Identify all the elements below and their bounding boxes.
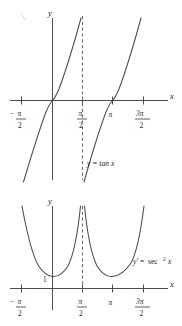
numerator: π <box>109 298 113 307</box>
equation-lhs: y′ <box>132 257 138 266</box>
y-value-label-one: 1 <box>43 276 47 284</box>
numerator: 3π <box>135 109 144 118</box>
denominator: 2 <box>140 309 144 318</box>
equation-base: sec <box>148 257 158 266</box>
neg-sign: − <box>10 109 14 118</box>
x-axis-label: x <box>169 91 174 101</box>
numerator: 3π <box>135 297 144 306</box>
ticklabel-neg-half-pi: − π 2 <box>10 109 26 130</box>
denominator: 2 <box>18 121 22 130</box>
sec-squared-graph: x y 1 y′ = sec 2 x <box>10 196 174 318</box>
denominator: 2 <box>79 121 83 130</box>
numerator: π <box>18 297 22 306</box>
ticklabel-three-half-pi: 3π 2 <box>135 109 150 130</box>
numerator: π <box>109 110 113 119</box>
y-axis-label: y <box>47 196 52 206</box>
y-axis-label: y <box>47 8 52 18</box>
scan-artifact <box>21 13 25 20</box>
denominator: 2 <box>79 309 83 318</box>
figure-container: x y y = tan x − π 2 <box>0 0 182 326</box>
ticklabel-half-pi: π 2 <box>77 109 87 130</box>
math-figure: x y y = tan x − π 2 <box>0 0 182 326</box>
equation-exponent: 2 <box>163 256 166 262</box>
tan-curve-right-branch <box>84 18 141 182</box>
ticklabel-pi: π <box>109 110 113 119</box>
denominator: 2 <box>140 121 144 130</box>
ticklabel-pi: π <box>109 298 113 307</box>
sec-squared-equation-label: y′ = sec 2 x <box>132 256 172 267</box>
equation-equals: = <box>140 257 144 266</box>
ticklabel-half-pi: π 2 <box>77 297 87 318</box>
ticklabel-neg-half-pi: − π 2 <box>10 297 26 318</box>
x-axis-label: x <box>169 279 174 289</box>
numerator: π <box>18 109 22 118</box>
neg-sign: − <box>10 297 14 306</box>
sec-squared-curve-left-branch <box>22 206 81 277</box>
tan-graph: x y y = tan x − π 2 <box>10 8 174 182</box>
equation-variable: x <box>167 257 172 266</box>
tan-equation-label: y = tan x <box>86 159 115 168</box>
denominator: 2 <box>18 309 22 318</box>
numerator: π <box>79 297 83 306</box>
ticklabel-three-half-pi: 3π 2 <box>135 297 150 318</box>
numerator: π <box>79 109 83 118</box>
